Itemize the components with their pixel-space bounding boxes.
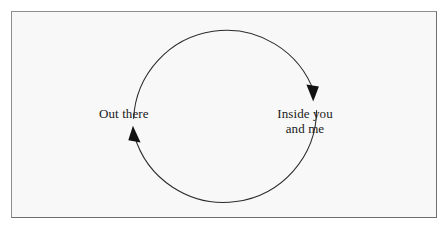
cycle-diagram xyxy=(0,0,447,230)
label-out-there-line-1: Out there xyxy=(99,106,149,121)
arrow-head-down-icon xyxy=(306,85,319,102)
label-inside-you-line-2: and me xyxy=(272,121,338,136)
label-inside-you-and-me: Inside you and me xyxy=(272,106,338,136)
label-out-there: Out there xyxy=(99,106,149,121)
arrow-head-up-icon xyxy=(128,126,140,143)
figure-canvas: Out there Inside you and me xyxy=(0,0,447,230)
label-inside-you-line-1: Inside you xyxy=(272,106,338,121)
